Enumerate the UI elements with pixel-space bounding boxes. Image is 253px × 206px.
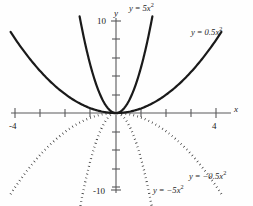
label-5x2-exp: 2: [151, 1, 154, 8]
y-tick-label-10: 10: [97, 16, 107, 26]
label-neg5x2-exp: 2: [181, 183, 184, 190]
label-neg5x2-op: =: [159, 185, 164, 195]
x-tick-label-4: 4: [212, 121, 217, 131]
label-curve-neg5x2: y = −5x2: [153, 185, 184, 195]
label-neg05x2-exp: 2: [223, 169, 226, 176]
y-axis-label: y: [113, 8, 118, 18]
label-neg05x2-coef: −0.5x: [202, 171, 223, 181]
label-curve-05x2: y = 0.5x2: [191, 27, 223, 37]
label-curve-neg05x2: y = −0.5x2: [189, 171, 226, 181]
x-axis-label: x: [233, 104, 238, 114]
label-05x2-op: =: [197, 27, 202, 37]
label-neg5x2-lhs: y: [153, 185, 157, 195]
parabola-figure: y x -4 4 10 -10 y = 5x2 y = 0.5x2 y = −5…: [0, 0, 253, 206]
label-05x2-coef: 0.5x: [204, 27, 219, 37]
label-neg05x2-lhs: y: [189, 171, 193, 181]
label-05x2-lhs: y: [191, 27, 195, 37]
label-neg05x2-op: =: [195, 171, 200, 181]
label-5x2-op: =: [135, 3, 140, 13]
label-5x2-coef: 5x: [142, 3, 150, 13]
label-neg5x2-coef: −5x: [166, 185, 180, 195]
label-5x2-lhs: y: [129, 3, 133, 13]
y-tick-label--10: -10: [93, 186, 105, 196]
x-tick-label--4: -4: [9, 121, 17, 131]
label-curve-5x2: y = 5x2: [129, 3, 154, 13]
label-05x2-exp: 2: [219, 25, 222, 32]
